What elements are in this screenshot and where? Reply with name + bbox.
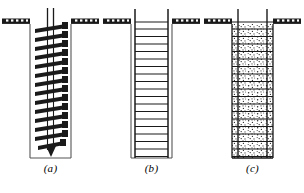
panel-a-drawing bbox=[0, 0, 101, 172]
reinforcing-cage-b bbox=[135, 9, 168, 158]
panel-a-caption: (a) bbox=[0, 162, 101, 174]
panel-c-concrete-placed: (c) bbox=[202, 0, 303, 193]
ground-surface-a bbox=[2, 19, 99, 24]
panel-c-drawing bbox=[202, 0, 303, 172]
cage-rungs-b bbox=[135, 22, 168, 157]
auger-flights-a bbox=[35, 22, 68, 157]
panel-b-caption: (b) bbox=[101, 162, 202, 174]
panel-a-drilling: (a) bbox=[0, 0, 101, 193]
panel-b-cage-placed: (b) bbox=[101, 0, 202, 193]
drilled-shaft-figure: (a) bbox=[0, 0, 304, 193]
panel-c-caption: (c) bbox=[202, 162, 303, 174]
panel-b-drawing bbox=[101, 0, 202, 172]
ground-surface-b bbox=[103, 19, 200, 24]
ground-surface-c bbox=[204, 19, 301, 24]
